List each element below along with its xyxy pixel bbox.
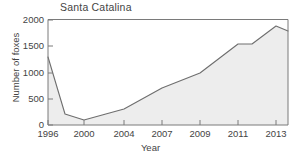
y-tick-label: 1000 [8, 67, 44, 78]
x-tick-label: 2000 [64, 128, 104, 139]
x-tick-label: 2004 [104, 128, 144, 139]
y-tick-label: 500 [8, 93, 44, 104]
y-tick-label: 1500 [8, 40, 44, 51]
area-fill [48, 26, 288, 125]
x-tick-label: 2013 [256, 128, 296, 139]
x-tick-label: 2011 [218, 128, 258, 139]
x-tick-label: 2009 [180, 128, 220, 139]
x-axis-label: Year [0, 142, 301, 153]
y-tick-label: 2000 [8, 14, 44, 25]
chart-title: Santa Catalina [60, 1, 132, 13]
x-tick-label: 1996 [28, 128, 68, 139]
x-tick-label: 2007 [142, 128, 182, 139]
chart-figure: Santa Catalina Number of foxes Year 2000… [0, 0, 301, 159]
